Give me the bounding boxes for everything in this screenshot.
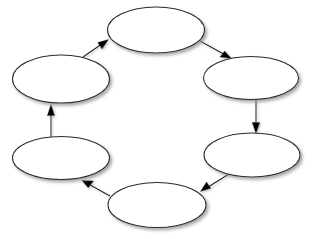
edge-bottom-to-bottom-left [82,181,110,197]
node-top-right[interactable] [204,57,299,100]
arrowhead-icon [98,40,109,50]
node-bottom-left[interactable] [13,137,110,180]
edge-line [207,174,230,188]
node-top-left[interactable] [13,55,110,103]
edge-top-right-to-bottom-right [252,100,260,134]
edge-line [89,184,111,196]
edge-bottom-left-to-top-left [47,105,54,138]
node-layer [13,7,301,228]
edge-top-to-top-right [200,41,232,59]
arrowhead-icon [82,181,94,188]
node-bottom-right[interactable] [204,133,300,177]
arrowhead-icon [201,182,211,192]
edge-top-left-to-top [83,40,109,58]
edge-line [200,41,226,55]
cycle-diagram [0,0,314,239]
node-shape[interactable] [204,133,300,177]
arrowhead-icon [252,123,260,134]
arrowhead-icon [47,105,54,116]
node-shape[interactable] [13,55,110,103]
node-shape[interactable] [204,57,299,100]
cycle-diagram-canvas [0,0,314,239]
edge-bottom-right-to-bottom [201,174,230,192]
arrowhead-icon [220,51,232,59]
node-shape[interactable] [13,137,110,180]
node-top[interactable] [108,7,205,53]
node-shape[interactable] [108,7,205,53]
node-shape[interactable] [108,183,206,228]
node-bottom[interactable] [108,183,206,228]
